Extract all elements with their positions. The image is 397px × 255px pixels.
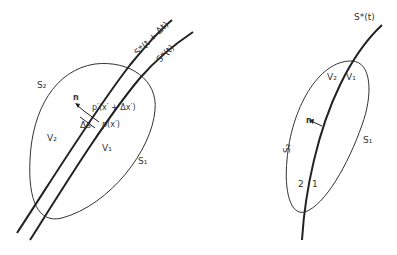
control-volume-boundary bbox=[286, 61, 369, 212]
surface-1-label: S₁ bbox=[363, 135, 373, 145]
side-1-label: 1 bbox=[312, 179, 318, 189]
right-figure: S*(t) S₂ S₁ n V₂ V₁ 2 1 bbox=[282, 12, 382, 240]
surface-1-label: S₁ bbox=[138, 156, 148, 166]
volume-2-label: V₂ bbox=[47, 133, 57, 143]
front-label: S*(t) bbox=[354, 12, 375, 22]
side-2-label: 2 bbox=[298, 179, 304, 189]
normal-arrow bbox=[78, 106, 84, 111]
left-figure: S*(t + Δt) S*(t) S₂ S₁ n p′(x′ + Δx′) p(… bbox=[17, 19, 193, 240]
front-new-curve bbox=[17, 20, 172, 233]
volume-2-label: V₂ bbox=[327, 72, 337, 82]
surface-2-label: S₂ bbox=[37, 80, 47, 90]
front-curve bbox=[302, 25, 382, 240]
surface-2-label: S₂ bbox=[282, 143, 292, 153]
point-old-label: p(x′) bbox=[102, 120, 120, 129]
point-new-label: p′(x′ + Δx′) bbox=[92, 103, 136, 112]
normal-arrow bbox=[313, 122, 322, 126]
volume-1-label: V₁ bbox=[346, 72, 356, 82]
diagram-canvas: S*(t + Δt) S*(t) S₂ S₁ n p′(x′ + Δx′) p(… bbox=[0, 0, 397, 255]
distance-label: Δs bbox=[80, 120, 91, 130]
volume-1-label: V₁ bbox=[102, 143, 112, 153]
normal-label: n bbox=[73, 93, 79, 102]
normal-label: n bbox=[306, 116, 312, 125]
